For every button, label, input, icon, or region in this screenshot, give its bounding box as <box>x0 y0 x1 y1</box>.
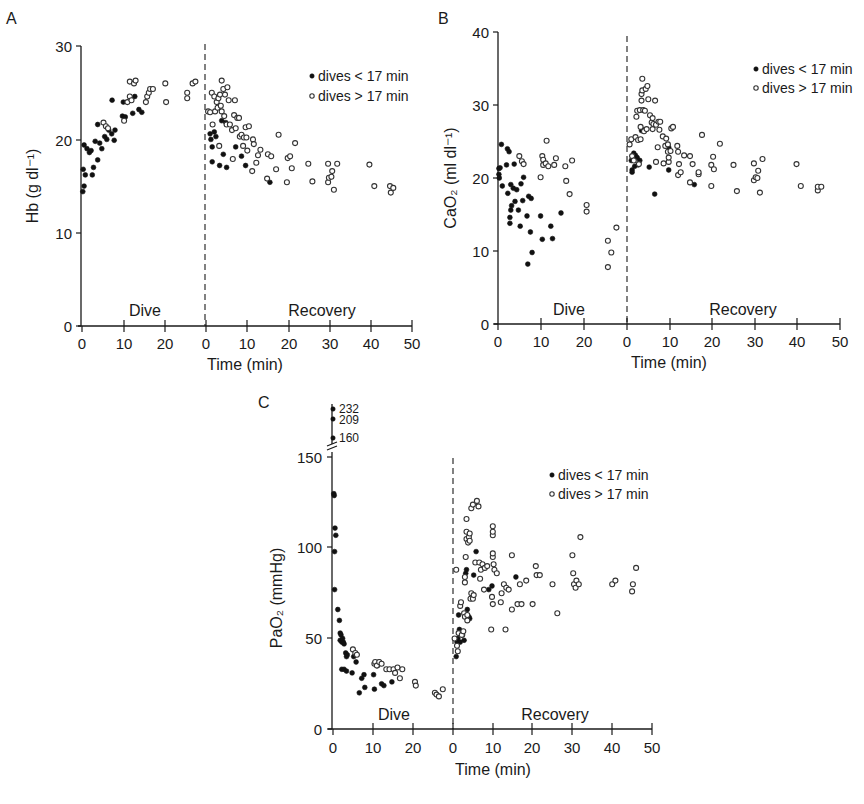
data-point <box>798 184 803 189</box>
data-point <box>112 138 117 143</box>
y-tick-label: 0 <box>64 318 72 335</box>
data-point <box>241 143 246 148</box>
data-point <box>794 162 799 167</box>
data-point <box>246 124 251 129</box>
data-point <box>564 178 569 183</box>
data-point <box>462 575 467 580</box>
x-tick-label: 20 <box>704 333 721 350</box>
y-tick-label: 40 <box>472 24 489 41</box>
data-point <box>250 169 255 174</box>
figure: A 30 20 10 0 0 10 20 <box>0 0 864 804</box>
data-point <box>212 130 217 135</box>
data-point <box>555 611 560 616</box>
data-point <box>631 158 636 163</box>
data-point <box>284 180 289 185</box>
y-tick-label: 0 <box>314 721 322 738</box>
data-point <box>657 127 662 132</box>
data-point <box>517 582 522 587</box>
data-point <box>570 158 575 163</box>
y-tick-label: 30 <box>472 97 489 114</box>
data-point <box>508 221 513 226</box>
data-point <box>465 618 470 623</box>
data-point <box>164 100 169 105</box>
data-point <box>332 493 337 498</box>
plot-area <box>497 76 824 269</box>
data-point <box>546 164 551 169</box>
data-point <box>382 683 387 688</box>
data-point <box>489 627 494 632</box>
data-point <box>678 170 683 175</box>
data-point <box>209 137 214 142</box>
y-axis-label: PaO₂ (mmHg) <box>268 548 285 648</box>
data-point <box>99 146 104 151</box>
data-point <box>552 162 557 167</box>
data-point <box>185 90 190 95</box>
data-point <box>519 602 524 607</box>
data-point <box>655 145 660 150</box>
y-ticks: 150 100 50 0 <box>297 449 332 738</box>
data-point <box>254 160 259 165</box>
x-ticks: 0 10 20 0 10 20 30 40 50 <box>78 320 421 352</box>
data-point <box>276 132 281 137</box>
outlier-label: 160 <box>339 431 359 445</box>
data-point <box>462 638 467 643</box>
data-point <box>233 145 238 150</box>
data-point <box>578 535 583 540</box>
data-point <box>476 504 481 509</box>
data-point <box>274 167 279 172</box>
data-point <box>506 587 511 592</box>
data-point <box>93 139 98 144</box>
x-tick-label: 40 <box>789 333 806 350</box>
x-ticks: 0 10 20 0 10 20 30 40 50 <box>329 723 661 756</box>
data-point <box>528 230 533 235</box>
x-tick-label: 10 <box>116 335 133 352</box>
y-tick-label: 150 <box>297 449 322 466</box>
data-point <box>245 148 250 153</box>
phase-label-dive: Dive <box>553 301 585 318</box>
data-point <box>239 154 244 159</box>
data-point <box>106 126 111 131</box>
data-point <box>133 78 138 83</box>
data-point <box>289 166 294 171</box>
data-point <box>550 582 555 587</box>
x-tick-label: 40 <box>604 739 621 756</box>
data-point <box>350 671 355 676</box>
data-point <box>654 159 659 164</box>
x-tick-label: 10 <box>662 333 679 350</box>
data-point <box>666 168 671 173</box>
data-point <box>258 147 263 152</box>
plot-area <box>331 491 638 699</box>
data-point <box>82 184 87 189</box>
legend: dives < 17 min dives > 17 min <box>550 467 649 502</box>
data-point <box>110 98 115 103</box>
data-point <box>666 155 671 160</box>
data-point <box>306 161 311 166</box>
x-tick-label: 0 <box>329 739 337 756</box>
data-point <box>494 571 499 576</box>
data-point <box>337 618 342 623</box>
data-point <box>251 137 256 142</box>
data-point <box>227 122 232 127</box>
data-point <box>500 184 505 189</box>
data-point <box>467 538 472 543</box>
data-point <box>540 237 545 242</box>
data-point <box>529 196 534 201</box>
data-point <box>711 167 716 172</box>
panel-letter: C <box>258 394 270 411</box>
data-point <box>440 687 445 692</box>
data-point <box>464 567 469 572</box>
data-point <box>471 593 476 598</box>
data-point <box>413 683 418 688</box>
data-point <box>474 498 479 503</box>
x-tick-label: 30 <box>322 335 339 352</box>
data-point <box>333 533 338 538</box>
x-tick-label: 10 <box>365 739 382 756</box>
data-point <box>645 84 650 89</box>
data-point <box>514 575 519 580</box>
data-point <box>717 141 722 146</box>
x-tick-label: 0 <box>202 335 210 352</box>
phase-label-dive: Dive <box>378 706 410 723</box>
x-ticks: 0 10 20 0 10 20 30 40 50 <box>494 318 849 350</box>
data-point <box>696 170 701 175</box>
x-tick-label: 0 <box>449 739 457 756</box>
